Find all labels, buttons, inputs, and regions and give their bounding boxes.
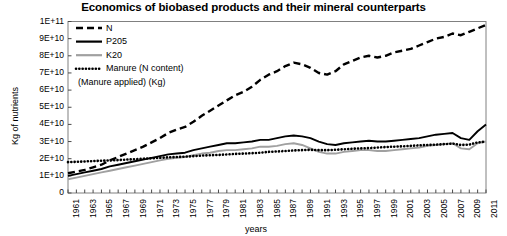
x-tick-label: 1983	[256, 199, 265, 218]
x-tick-label: 1969	[139, 199, 148, 218]
x-tick-label: 2005	[440, 199, 449, 218]
x-tick-label: 2009	[473, 199, 482, 218]
x-tick-label: 1993	[340, 199, 349, 218]
y-tick-label: 0	[20, 188, 64, 197]
y-tick-label: 9E+10	[20, 34, 64, 43]
x-tick-label: 1985	[273, 199, 282, 218]
x-tick-label: 1961	[72, 199, 81, 218]
y-tick-label: 2E+10	[20, 154, 64, 163]
x-tick-label: 2003	[423, 199, 432, 218]
x-tick-label: 1977	[206, 199, 215, 218]
x-tick-label: 1995	[356, 199, 365, 218]
x-tick-label: 1967	[122, 199, 131, 218]
y-tick-label: 1E+11	[20, 17, 64, 26]
x-tick-label: 1999	[390, 199, 399, 218]
x-tick-label: 2011	[490, 200, 499, 218]
x-tick-label: 1973	[172, 199, 181, 218]
x-tick-label: 1975	[189, 199, 198, 218]
legend-item-label: P205	[106, 36, 127, 46]
x-tick-label: 2007	[457, 199, 466, 218]
y-tick-label: 8E+10	[20, 51, 64, 60]
x-tick-label: 1987	[289, 199, 298, 218]
y-tick-label: 7E+10	[20, 68, 64, 77]
x-tick-label: 1981	[239, 199, 248, 218]
x-tick-label: 1997	[373, 199, 382, 218]
x-tick-label: 1979	[222, 199, 231, 218]
x-tick-label: 1971	[156, 199, 165, 218]
x-tick-label: 2001	[406, 199, 415, 218]
series-layer	[68, 25, 486, 179]
series-line-p205	[68, 124, 486, 175]
y-tick-label: 1E+10	[20, 171, 64, 180]
legend-item-label: Manure (N content)	[106, 63, 184, 73]
series-line-n	[68, 25, 486, 173]
x-tick-label: 1989	[306, 199, 315, 218]
y-tick-label: 3E+10	[20, 137, 64, 146]
y-tick-label: 5E+10	[20, 102, 64, 111]
legend-item-label: (Manure applied) (Kg)	[78, 77, 166, 87]
legend-item-label: K20	[106, 50, 122, 60]
legend-item-label: N	[106, 23, 113, 33]
y-tick-label: 6E+10	[20, 85, 64, 94]
y-tick-label: 4E+10	[20, 119, 64, 128]
x-tick-label: 1991	[323, 199, 332, 218]
legend-swatches	[76, 28, 102, 69]
x-tick-label: 1963	[89, 199, 98, 218]
chart-container: Economics of biobased products and their…	[0, 0, 507, 236]
x-tick-label: 1965	[105, 199, 114, 218]
